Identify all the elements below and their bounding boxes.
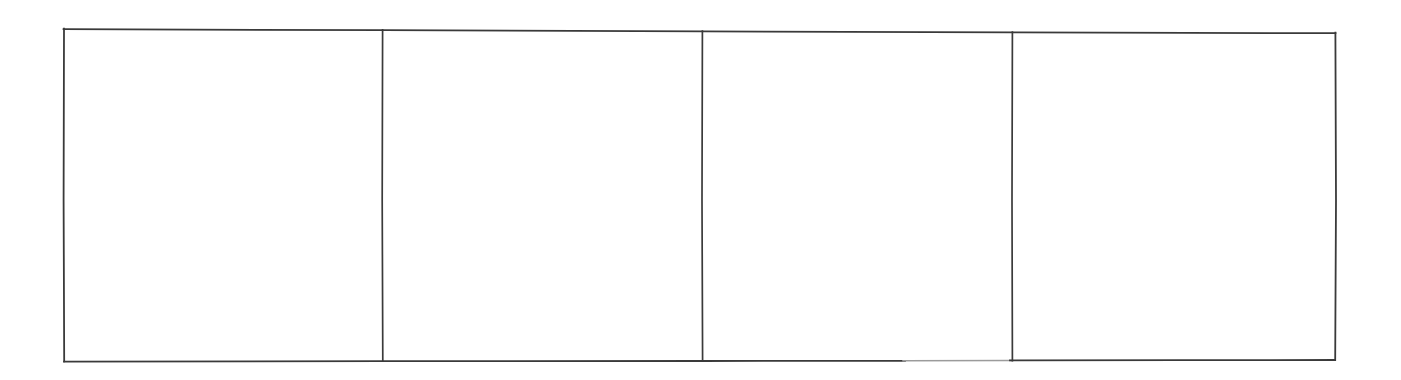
table-cell-2[interactable]: [384, 32, 701, 360]
table-cell-1[interactable]: [65, 31, 381, 360]
table-column-divider-2: [702, 31, 703, 361]
table-column-divider-1: [382, 30, 383, 361]
table-border-bottom-left-segment: [64, 361, 905, 362]
table-border-right: [1335, 33, 1336, 361]
table-cell-3[interactable]: [704, 33, 1011, 360]
screenshot-root: [0, 0, 1401, 380]
table-cell-4[interactable]: [1014, 34, 1334, 360]
